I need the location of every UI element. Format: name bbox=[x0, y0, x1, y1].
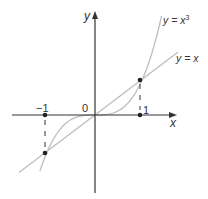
point-1-0 bbox=[138, 113, 143, 118]
cubic-curve bbox=[40, 16, 162, 171]
origin-label: 0 bbox=[82, 103, 88, 114]
cubic-curve-label: y = x3 bbox=[163, 14, 189, 26]
cubic-label-exponent: 3 bbox=[185, 14, 189, 21]
y-axis-label: y bbox=[84, 10, 90, 22]
chart-figure: y x 0 −1 1 y = x3 y = x bbox=[0, 0, 208, 199]
point-neg1-neg1 bbox=[43, 151, 48, 156]
linear-line-label: y = x bbox=[176, 53, 198, 64]
tick-label-1: 1 bbox=[143, 105, 149, 116]
point-1-1 bbox=[138, 78, 143, 83]
tick-label-neg1: −1 bbox=[36, 103, 49, 114]
cubic-label-text: y = x bbox=[163, 14, 185, 26]
y-axis-arrow-icon bbox=[92, 11, 98, 19]
plot-canvas bbox=[0, 0, 208, 199]
x-axis-label: x bbox=[170, 117, 176, 129]
